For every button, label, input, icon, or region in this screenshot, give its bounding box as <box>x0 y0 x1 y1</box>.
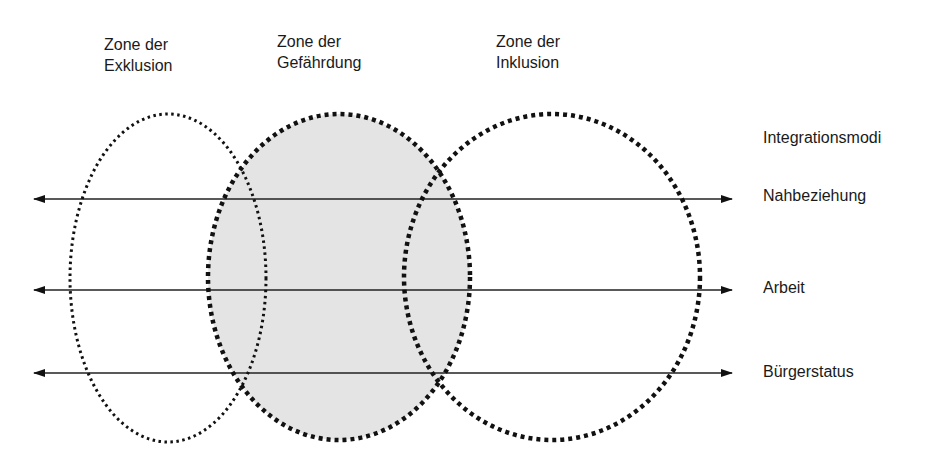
mode-label-buergerstatus: Bürgerstatus <box>763 362 854 382</box>
zone-label-exclusion: Zone der Exklusion <box>104 34 172 76</box>
zone-label-inclusion: Zone der Inklusion <box>496 31 560 73</box>
zone-label-endangerment: Zone der Gefährdung <box>277 31 362 73</box>
mode-label-nahbeziehung: Nahbeziehung <box>763 186 866 206</box>
zone-label-exclusion-line2: Exklusion <box>104 55 172 76</box>
modes-header: Integrationsmodi <box>763 128 881 148</box>
zone-label-inclusion-line2: Inklusion <box>496 52 560 73</box>
zone-label-endangerment-line1: Zone der <box>277 31 362 52</box>
mode-label-arbeit: Arbeit <box>763 278 805 298</box>
zone-label-inclusion-line1: Zone der <box>496 31 560 52</box>
zone-label-exclusion-line1: Zone der <box>104 34 172 55</box>
zone-label-endangerment-line2: Gefährdung <box>277 52 362 73</box>
